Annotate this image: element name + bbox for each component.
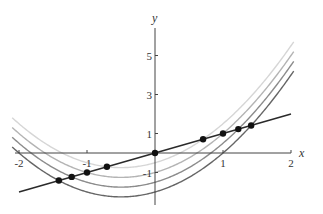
intersection-point	[152, 150, 158, 156]
x-tick-label: -1	[82, 157, 91, 169]
intersection-point	[84, 169, 90, 175]
plot-area: -2-112 -1135 x y	[0, 0, 323, 214]
intersection-point	[104, 164, 110, 170]
parabola-family	[12, 42, 294, 197]
y-tick-label: 3	[147, 89, 153, 101]
intersection-point	[235, 126, 241, 132]
x-tick-label: 1	[220, 157, 226, 169]
x-axis-label: x	[298, 146, 305, 160]
intersection-point	[200, 136, 206, 142]
intersection-point	[220, 130, 226, 136]
x-tick-label: -2	[14, 157, 23, 169]
intersection-point	[69, 174, 75, 180]
intersection-point	[56, 177, 62, 183]
y-axis-ticks: -1135	[143, 50, 158, 179]
y-tick-label: -1	[143, 167, 152, 179]
y-axis-label: y	[151, 11, 158, 25]
x-tick-label: 2	[288, 157, 294, 169]
intersection-point	[248, 122, 254, 128]
chart: -2-112 -1135 x y	[0, 0, 323, 214]
parabola-curve	[12, 71, 294, 197]
y-tick-label: 5	[147, 50, 153, 62]
y-tick-label: 1	[147, 128, 153, 140]
